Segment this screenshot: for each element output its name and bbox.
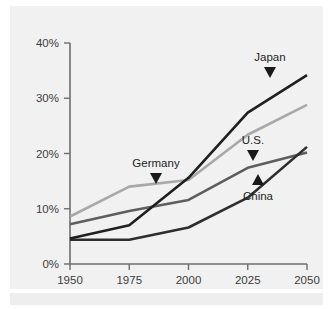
y-tick-label-40: 40% [36,37,59,49]
x-tick-label-1975: 1975 [116,274,142,286]
x-tick-label-2050: 2050 [294,274,320,286]
triangle-down-icon [247,150,259,161]
plot-panel: 0% 10% 20% 30% 40% 1950 1975 2000 2025 2… [10,6,323,289]
series-group [70,75,307,240]
y-tick-label-0: 0% [42,258,59,270]
series-line-japan [70,75,307,239]
series-label-germany: Germany [132,157,180,169]
x-tick-label-2000: 2000 [176,274,202,286]
y-tick-label-10: 10% [36,203,59,215]
line-chart: 0% 10% 20% 30% 40% 1950 1975 2000 2025 2… [10,6,323,289]
bottom-strip [10,293,323,305]
annotation-us: U.S. [242,134,264,161]
triangle-up-icon [252,174,264,185]
series-line-us [70,152,307,224]
series-label-china: China [243,190,274,202]
series-label-us: U.S. [242,134,264,146]
x-tick-label-2025: 2025 [235,274,261,286]
y-tick-label-30: 30% [36,92,59,104]
chart-figure: 0% 10% 20% 30% 40% 1950 1975 2000 2025 2… [0,0,333,309]
triangle-down-icon [264,67,276,78]
series-label-japan: Japan [254,51,285,63]
x-tick-label-1950: 1950 [57,274,83,286]
y-tick-label-20: 20% [36,148,59,160]
annotation-germany: Germany [132,157,180,184]
annotation-japan: Japan [254,51,285,78]
